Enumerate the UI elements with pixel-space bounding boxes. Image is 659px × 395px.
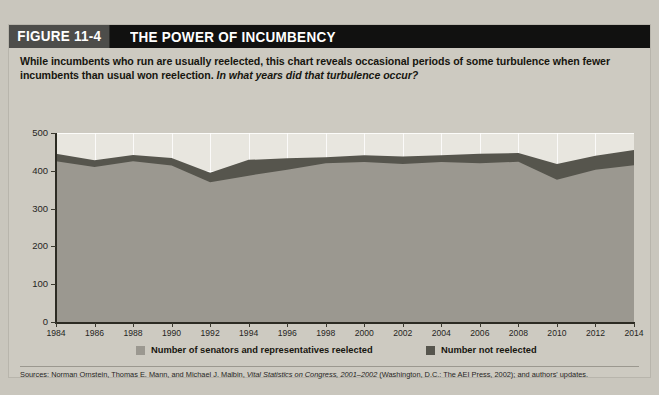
- y-tick-mark-100: [51, 284, 56, 285]
- x-tick-mark-2010: [557, 323, 558, 327]
- y-axis-line: [55, 133, 57, 323]
- chart-plot-area: [56, 133, 634, 322]
- x-tick-mark-2008: [518, 323, 519, 327]
- figure-card: FIGURE 11-4 THE POWER OF INCUMBENCY Whil…: [9, 25, 650, 377]
- x-tick-mark-1984: [56, 323, 57, 327]
- x-tick-mark-1992: [210, 323, 211, 327]
- y-tick-label-400: 400: [16, 165, 48, 176]
- y-tick-label-200: 200: [16, 240, 48, 251]
- x-tick-mark-2014: [634, 323, 635, 327]
- x-tick-mark-2006: [480, 323, 481, 327]
- x-tick-label-2004: 2004: [421, 328, 461, 338]
- series-area-not-reelected: [56, 161, 634, 322]
- area-chart-svg: [56, 133, 634, 322]
- legend-item-reelected: Number of senators and representatives r…: [136, 345, 373, 355]
- y-tick-label-100: 100: [16, 278, 48, 289]
- x-tick-label-1994: 1994: [229, 328, 269, 338]
- x-tick-mark-2004: [441, 323, 442, 327]
- source-prefix: Sources: Norman Ornstein, Thomas E. Mann…: [20, 370, 247, 379]
- x-axis-line: [55, 322, 635, 324]
- y-tick-mark-300: [51, 209, 56, 210]
- x-tick-label-1998: 1998: [306, 328, 346, 338]
- y-tick-mark-400: [51, 171, 56, 172]
- x-tick-mark-1994: [249, 323, 250, 327]
- source-suffix: (Washington, D.C.: The AEI Press, 2002);…: [377, 370, 588, 379]
- source-title-italic: Vital Statistics on Congress, 2001–2002: [247, 370, 378, 379]
- subtitle-question: In what years did that turbulence occur?: [216, 69, 418, 81]
- x-tick-label-1988: 1988: [113, 328, 153, 338]
- x-tick-label-2010: 2010: [537, 328, 577, 338]
- y-tick-label-300: 300: [16, 203, 48, 214]
- x-tick-label-2006: 2006: [460, 328, 500, 338]
- y-tick-label-500: 500: [16, 127, 48, 138]
- legend-swatch-reelected: [136, 346, 145, 355]
- x-tick-mark-1998: [326, 323, 327, 327]
- x-tick-label-1986: 1986: [75, 328, 115, 338]
- x-tick-mark-2000: [364, 323, 365, 327]
- legend-swatch-not-reelected: [426, 346, 435, 355]
- y-tick-label-0: 0: [16, 316, 48, 327]
- x-tick-mark-1988: [133, 323, 134, 327]
- x-tick-mark-1986: [95, 323, 96, 327]
- x-tick-label-2002: 2002: [383, 328, 423, 338]
- x-tick-mark-1996: [287, 323, 288, 327]
- source-citation: Sources: Norman Ornstein, Thomas E. Mann…: [20, 370, 645, 380]
- figure-header-bar: FIGURE 11-4 THE POWER OF INCUMBENCY: [9, 25, 650, 48]
- y-tick-mark-500: [51, 133, 56, 134]
- x-tick-label-2000: 2000: [344, 328, 384, 338]
- x-tick-mark-2002: [403, 323, 404, 327]
- figure-subtitle: While incumbents who run are usually ree…: [20, 54, 637, 82]
- chart-legend: Number of senators and representatives r…: [9, 345, 650, 361]
- x-tick-label-1992: 1992: [190, 328, 230, 338]
- x-tick-label-1990: 1990: [152, 328, 192, 338]
- figure-title: THE POWER OF INCUMBENCY: [130, 29, 336, 45]
- legend-item-not-reelected: Number not reelected: [426, 345, 537, 355]
- x-tick-mark-2012: [595, 323, 596, 327]
- x-tick-label-2014: 2014: [614, 328, 654, 338]
- source-divider: [20, 366, 639, 367]
- x-tick-label-2008: 2008: [498, 328, 538, 338]
- figure-number: FIGURE 11-4: [9, 25, 110, 48]
- y-tick-mark-200: [51, 246, 56, 247]
- legend-label-not-reelected: Number not reelected: [441, 345, 537, 355]
- x-tick-label-1984: 1984: [36, 328, 76, 338]
- x-tick-label-1996: 1996: [267, 328, 307, 338]
- x-tick-mark-1990: [172, 323, 173, 327]
- legend-label-reelected: Number of senators and representatives r…: [151, 345, 373, 355]
- chart-plot-wrapper: 0100200300400500 19841986198819901992199…: [9, 97, 650, 337]
- x-tick-label-2012: 2012: [575, 328, 615, 338]
